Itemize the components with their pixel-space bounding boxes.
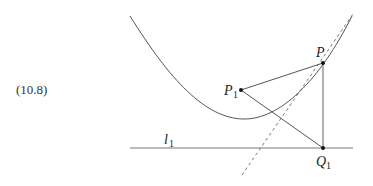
label-q1: Q: [316, 154, 326, 169]
label-p: P: [315, 45, 325, 60]
parabola-curve: [130, 16, 352, 119]
label-l1-sub: 1: [169, 138, 174, 149]
point-p: [321, 61, 325, 65]
tangent-line: [242, 14, 353, 175]
point-p1: [239, 88, 243, 92]
label-p1-sub: 1: [233, 89, 238, 100]
segment-p1-q1: [241, 90, 323, 148]
label-q1-sub: 1: [326, 160, 331, 171]
label-l1: l: [164, 132, 168, 147]
parabola-diagram: P P 1 Q 1 l 1: [0, 0, 373, 186]
segment-p-p1: [241, 63, 323, 90]
label-p1: P: [223, 83, 233, 98]
point-q1: [321, 146, 325, 150]
